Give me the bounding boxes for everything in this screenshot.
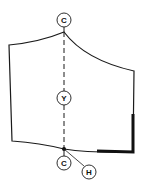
marker-label: C bbox=[61, 159, 67, 168]
marker-bottom-h: H bbox=[82, 165, 96, 179]
marker-label: C bbox=[61, 16, 67, 25]
marker-mid-y: Y bbox=[57, 91, 71, 105]
marker-top-c: C bbox=[57, 13, 71, 27]
pattern-diagram: C Y C H bbox=[0, 0, 144, 188]
marker-label: Y bbox=[61, 94, 67, 103]
pattern-outline bbox=[9, 32, 134, 152]
marker-label: H bbox=[86, 168, 92, 177]
bold-edge bbox=[97, 114, 133, 152]
marker-bottom-c: C bbox=[57, 156, 71, 170]
